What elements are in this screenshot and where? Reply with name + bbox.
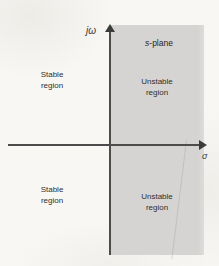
imaginary-axis-label: jω: [86, 25, 96, 36]
region-label-line1: Unstable: [118, 76, 196, 87]
region-label-stable-upper-left: Stable region: [20, 69, 84, 91]
region-label-line2: region: [118, 87, 196, 98]
arrow-right-icon: [199, 140, 207, 150]
region-label-line2: region: [118, 202, 196, 213]
arrow-up-icon: [105, 24, 115, 32]
real-axis-line: [8, 144, 202, 146]
real-axis-label: σ: [202, 151, 207, 161]
plane-label-text: s-plane: [145, 38, 173, 48]
region-label-line1: Unstable: [118, 191, 196, 202]
unstable-half-plane-shading: [110, 25, 204, 255]
region-label-stable-lower-left: Stable region: [20, 184, 84, 206]
region-label-unstable-lower-right: Unstable region: [118, 191, 196, 213]
plane-label: s-plane: [133, 38, 185, 48]
region-label-line2: region: [20, 80, 84, 91]
imaginary-axis-line: [109, 27, 111, 255]
region-label-line1: Stable: [20, 184, 84, 195]
figure-canvas: jω σ s-plane Stable region Unstable regi…: [0, 0, 219, 266]
region-label-line2: region: [20, 195, 84, 206]
region-label-line1: Stable: [20, 69, 84, 80]
region-label-unstable-upper-right: Unstable region: [118, 76, 196, 98]
